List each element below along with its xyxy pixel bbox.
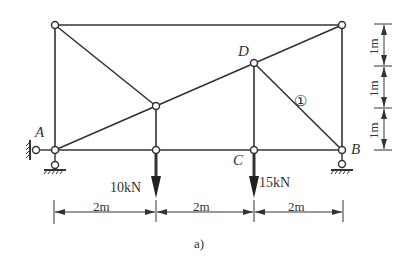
label-c: C (233, 152, 244, 168)
dim-label-v2: 1m (366, 80, 381, 97)
load-10kn (151, 154, 161, 198)
load-arrow-icon (249, 176, 259, 198)
label-a: A (34, 124, 45, 140)
dim-label-h1: 2m (93, 199, 110, 214)
dim-label-h2: 2m (193, 199, 210, 214)
node-d (251, 60, 258, 67)
dim-label-v3: 1m (366, 122, 381, 139)
support-a (26, 140, 66, 174)
node-bottom-mid (153, 147, 160, 154)
member-main-diagonal (55, 25, 342, 150)
load-label-15kn: 15kN (259, 175, 290, 190)
truss-diagram: A D C B ① 10kN 15kN 2m 2m 2m 1m 1m 1m a) (0, 0, 412, 269)
load-15kn (249, 154, 259, 198)
node-b (339, 147, 346, 154)
node-c (251, 147, 258, 154)
node-a (52, 147, 59, 154)
load-arrow-icon (151, 176, 161, 198)
member-top-left-diagonal (55, 25, 156, 106)
node-top-left (52, 22, 59, 29)
member-label-1: ① (294, 93, 307, 109)
node-mid (153, 103, 160, 110)
label-b: B (351, 141, 360, 157)
dim-label-v1: 1m (366, 38, 381, 55)
figure-caption: a) (194, 236, 204, 251)
node-top-right (339, 22, 346, 29)
load-label-10kn: 10kN (110, 180, 141, 195)
truss-members (55, 25, 342, 150)
label-d: D (237, 43, 249, 59)
dim-label-h3: 2m (288, 199, 305, 214)
